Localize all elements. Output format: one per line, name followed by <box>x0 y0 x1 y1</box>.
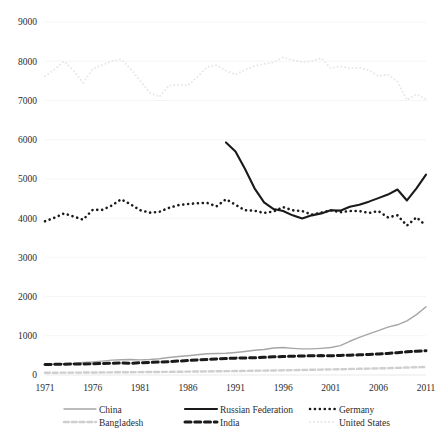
y-tick-label-0: 0 <box>32 370 37 380</box>
series-line-germany <box>45 199 426 225</box>
legend-item-bangladesh[interactable]: Bangladesh <box>64 418 144 428</box>
y-tick-label-7000: 7000 <box>18 96 37 106</box>
x-tick-label-2006: 2006 <box>369 383 388 393</box>
legend-label-india: India <box>220 418 240 428</box>
x-tick-label-1991: 1991 <box>226 383 245 393</box>
series-line-united-states <box>45 57 426 100</box>
line-chart: 0100020003000400050006000700080009000 19… <box>0 0 435 445</box>
legend-label-united-states: United States <box>339 418 390 428</box>
legend-label-russian-federation: Russian Federation <box>220 405 293 415</box>
legend-item-united-states[interactable]: United States <box>310 418 390 428</box>
y-tick-label-8000: 8000 <box>18 57 37 67</box>
legend-label-bangladesh: Bangladesh <box>99 418 144 428</box>
legend-label-china: China <box>99 405 122 415</box>
x-tick-label-1976: 1976 <box>83 383 102 393</box>
series-line-bangladesh <box>45 367 426 373</box>
x-tick-label-1981: 1981 <box>131 383 150 393</box>
y-tick-label-1000: 1000 <box>18 331 37 341</box>
chart-container: 0100020003000400050006000700080009000 19… <box>0 0 435 445</box>
x-tick-label-2011: 2011 <box>417 383 435 393</box>
y-axis-tick-labels: 0100020003000400050006000700080009000 <box>18 17 37 380</box>
x-axis-tick-labels: 197119761981198619911996200120062011 <box>36 383 435 393</box>
legend-label-germany: Germany <box>339 405 375 415</box>
series-line-russian-federation <box>226 142 426 218</box>
chart-legend: ChinaRussian FederationGermanyBangladesh… <box>64 405 390 428</box>
y-tick-label-6000: 6000 <box>18 135 37 145</box>
y-tick-label-4000: 4000 <box>18 214 37 224</box>
plot-series-group <box>45 57 426 372</box>
y-tick-label-9000: 9000 <box>18 17 37 27</box>
legend-item-india[interactable]: India <box>185 418 240 428</box>
x-tick-label-1971: 1971 <box>36 383 55 393</box>
legend-item-china[interactable]: China <box>64 405 122 415</box>
x-tick-label-2001: 2001 <box>321 383 340 393</box>
x-tick-label-1996: 1996 <box>274 383 293 393</box>
y-tick-label-2000: 2000 <box>18 292 37 302</box>
y-tick-label-5000: 5000 <box>18 174 37 184</box>
y-tick-label-3000: 3000 <box>18 253 37 263</box>
x-tick-label-1986: 1986 <box>178 383 197 393</box>
gridlines-group <box>45 22 426 375</box>
legend-item-germany[interactable]: Germany <box>310 405 375 415</box>
legend-item-russian-federation[interactable]: Russian Federation <box>185 405 293 415</box>
